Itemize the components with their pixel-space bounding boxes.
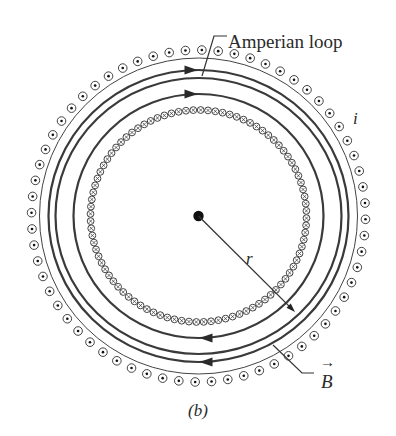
current-into-page-icon <box>293 257 300 264</box>
current-out-of-page-icon <box>361 199 370 208</box>
current-into-page-icon <box>275 142 282 149</box>
current-out-of-page-icon <box>347 278 356 287</box>
current-out-of-page-icon <box>67 104 76 113</box>
current-into-page-icon <box>87 218 94 225</box>
current-out-of-page-icon <box>74 327 83 336</box>
current-into-page-icon <box>94 175 101 182</box>
current-into-page-icon <box>125 293 132 300</box>
current-out-of-page-icon <box>246 54 255 63</box>
current-into-page-icon <box>295 172 302 179</box>
current-out-of-page-icon <box>35 160 44 169</box>
current-out-of-page-icon <box>91 81 100 90</box>
current-out-of-page-icon <box>143 370 152 379</box>
current-out-of-page-icon <box>28 192 37 201</box>
current-out-of-page-icon <box>335 122 344 131</box>
current-out-of-page-icon <box>361 215 370 224</box>
current-into-page-icon <box>150 309 157 316</box>
current-into-page-icon <box>129 129 136 136</box>
current-into-page-icon <box>135 125 142 132</box>
current-out-of-page-icon <box>165 48 174 57</box>
current-out-of-page-icon <box>78 92 87 101</box>
current-into-page-icon <box>90 189 97 196</box>
current-into-page-icon <box>88 196 95 203</box>
current-into-page-icon <box>141 121 148 128</box>
current-into-page-icon <box>262 296 269 303</box>
current-into-page-icon <box>292 166 299 173</box>
current-into-page-icon <box>123 134 130 141</box>
current-out-of-page-icon <box>284 352 293 361</box>
current-into-page-icon <box>300 236 307 243</box>
current-out-of-page-icon <box>30 241 39 250</box>
current-into-page-icon <box>249 304 256 311</box>
current-out-of-page-icon <box>39 272 48 281</box>
current-out-of-page-icon <box>149 52 158 61</box>
current-into-page-icon <box>102 266 109 273</box>
current-into-page-icon <box>147 118 154 125</box>
current-out-of-page-icon <box>54 301 63 310</box>
field-vector-arrow-icon: → <box>320 354 335 370</box>
current-out-of-page-icon <box>350 151 359 160</box>
field-direction-arrow-icon <box>185 90 198 99</box>
current-into-page-icon <box>302 200 309 207</box>
current-into-page-icon <box>303 222 310 229</box>
current-out-of-page-icon <box>99 348 108 357</box>
current-into-page-icon <box>93 246 100 253</box>
current-out-of-page-icon <box>359 183 368 192</box>
current-out-of-page-icon <box>276 67 285 76</box>
current-into-page-icon <box>288 159 295 166</box>
current-into-page-icon <box>265 132 272 139</box>
current-out-of-page-icon <box>315 97 324 106</box>
current-into-page-icon <box>219 109 226 116</box>
current-out-of-page-icon <box>198 46 207 55</box>
current-into-page-icon <box>215 317 222 324</box>
current-into-page-icon <box>171 316 178 323</box>
current-out-of-page-icon <box>255 366 264 375</box>
current-into-page-icon <box>164 314 171 321</box>
current-into-page-icon <box>302 229 309 236</box>
current-into-page-icon <box>259 127 266 134</box>
field-direction-arrow-icon <box>200 358 213 367</box>
current-out-of-page-icon <box>27 208 36 217</box>
current-into-page-icon <box>290 263 297 270</box>
current-out-of-page-icon <box>118 64 127 73</box>
current-into-page-icon <box>247 119 254 126</box>
current-into-page-icon <box>120 289 127 296</box>
current-into-page-icon <box>270 137 277 144</box>
current-into-page-icon <box>144 306 151 313</box>
current-into-page-icon <box>104 156 111 163</box>
current-out-of-page-icon <box>360 231 369 240</box>
current-out-of-page-icon <box>290 76 299 85</box>
current-into-page-icon <box>131 298 138 305</box>
amperian-loop-label: Amperian loop <box>228 31 343 52</box>
current-out-of-page-icon <box>45 287 54 296</box>
current-out-of-page-icon <box>325 109 334 118</box>
current-into-page-icon <box>236 311 243 318</box>
current-out-of-page-icon <box>104 72 113 81</box>
radius-label: r <box>246 249 253 268</box>
current-into-page-icon <box>98 259 105 266</box>
current-into-page-icon <box>100 162 107 169</box>
current-into-page-icon <box>296 250 303 257</box>
current-out-of-page-icon <box>175 377 184 386</box>
current-out-of-page-icon <box>133 57 142 66</box>
current-out-of-page-icon <box>331 307 340 316</box>
current-into-page-icon <box>229 313 236 320</box>
current-out-of-page-icon <box>357 247 366 256</box>
current-out-of-page-icon <box>41 145 50 154</box>
current-into-page-icon <box>157 312 164 319</box>
current-into-page-icon <box>137 302 144 309</box>
current-into-page-icon <box>285 153 292 160</box>
current-out-of-page-icon <box>355 167 364 176</box>
current-into-page-icon <box>200 318 207 325</box>
current-out-of-page-icon <box>181 46 190 55</box>
current-into-page-icon <box>303 207 310 214</box>
current-into-page-icon <box>300 186 307 193</box>
current-into-page-icon <box>280 147 287 154</box>
field-direction-arrow-icon <box>200 334 213 343</box>
current-out-of-page-icon <box>28 225 37 234</box>
current-into-page-icon <box>118 139 125 146</box>
current-into-page-icon <box>154 115 161 122</box>
current-into-page-icon <box>298 243 305 250</box>
current-into-page-icon <box>208 318 215 325</box>
current-into-page-icon <box>212 108 219 115</box>
